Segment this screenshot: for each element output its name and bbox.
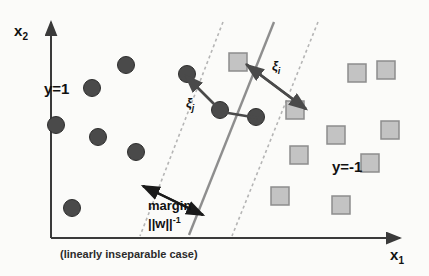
negative-class-label: y=-1 [332,158,362,175]
data-point-square [271,187,289,205]
data-point-square [229,53,247,71]
data-point-square [286,101,304,119]
data-point-square [332,196,350,214]
x-axis-label-sub: 1 [399,255,405,266]
diagram-canvas [0,0,429,276]
weight-norm-exponent: -1 [173,215,181,225]
positive-class-label: y=1 [44,80,69,97]
x-axis-label-text: x [390,246,399,263]
data-point-circle-support [179,66,196,83]
data-point-square [361,154,379,172]
data-point-square [381,121,399,139]
svm-diagram: x2 x1 y=1 y=-1 ξi ξj margin ||w||-1 (lin… [0,0,429,276]
negative-class-points [229,53,399,214]
data-point-square [348,64,366,82]
slack-j-subscript: j [192,103,195,113]
slack-i-label: ξi [272,58,280,76]
figure-caption: (linearly inseparable case) [60,248,198,260]
data-point-circle [118,57,135,74]
data-point-circle [48,117,65,134]
data-point-circle [128,144,145,161]
data-point-square [327,126,345,144]
slack-j-label: ξj [186,95,194,113]
data-point-circle [90,129,107,146]
y-axis-label-text: x [14,22,23,39]
y-axis-label-sub: 2 [23,31,29,42]
x-axis-label: x1 [390,246,404,266]
y-axis-label: x2 [14,22,28,42]
margin-label-line1: margin [148,198,191,213]
weight-norm-text: ||w|| [148,216,173,231]
margin-label-line2: ||w||-1 [148,213,191,231]
slack-i-subscript: i [278,66,281,76]
data-point-square [377,61,395,79]
margin-label: margin ||w||-1 [148,198,191,231]
data-point-square [290,146,308,164]
data-point-circle [84,80,101,97]
data-point-circle [64,200,81,217]
